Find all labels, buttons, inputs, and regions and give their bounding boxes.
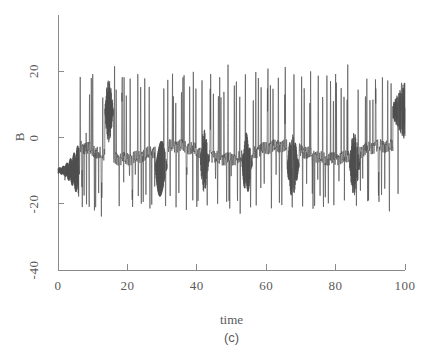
y-tick-label: 0 <box>26 121 42 155</box>
chart-figure: 200-20-40 020406080100 B time (c) <box>0 0 442 356</box>
data-series-line <box>58 65 405 217</box>
x-axis-ticks <box>58 264 405 270</box>
y-tick-label: 20 <box>26 54 42 88</box>
chart-plot-area <box>0 0 442 356</box>
x-tick-label: 100 <box>375 278 435 294</box>
x-tick-label: 20 <box>97 278 157 294</box>
panel-caption: (c) <box>172 330 292 345</box>
x-tick-label: 80 <box>306 278 366 294</box>
y-tick-label: -20 <box>26 187 42 221</box>
x-axis-title: time <box>172 312 292 328</box>
y-axis-title: B <box>12 117 28 157</box>
data-series-group <box>58 65 405 217</box>
x-tick-label: 0 <box>28 278 88 294</box>
x-tick-label: 60 <box>236 278 296 294</box>
x-tick-label: 40 <box>167 278 227 294</box>
